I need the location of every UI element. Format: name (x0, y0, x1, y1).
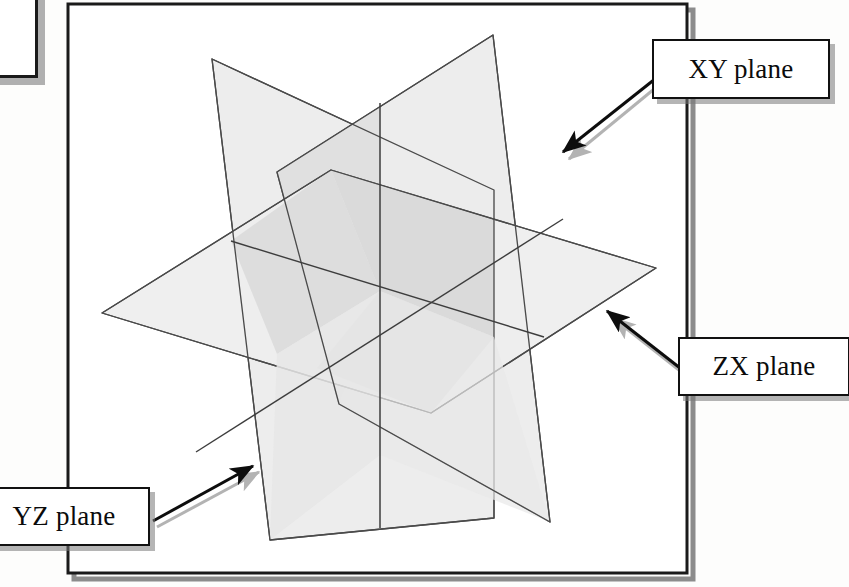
callout-box-zx-plane[interactable]: ZX plane (678, 337, 849, 396)
figure-canvas: XY plane ZX plane YZ plane (0, 0, 849, 587)
callout-label-zx-plane: ZX plane (713, 353, 816, 380)
callout-label-xy-plane: XY plane (689, 56, 794, 83)
callout-box-yz-plane[interactable]: YZ plane (0, 487, 150, 546)
callout-label-yz-plane: YZ plane (13, 503, 116, 530)
callout-box-xy-plane[interactable]: XY plane (652, 39, 830, 99)
